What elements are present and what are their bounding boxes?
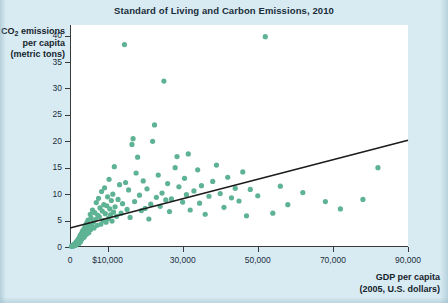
scatter-point (176, 184, 181, 189)
chart-title: Standard of Living and Carbon Emissions,… (0, 5, 448, 16)
x-tick-label: 50,000 (245, 255, 271, 265)
scatter-point (111, 210, 116, 215)
scatter-point (206, 194, 211, 199)
x-axis-label-line2: (2005, U.S. dollars) (200, 284, 440, 296)
scatter-point (134, 170, 139, 175)
x-tick-mark (108, 247, 109, 252)
scatter-point (135, 155, 140, 160)
scatter-point (165, 181, 170, 186)
scatter-point (102, 185, 107, 190)
x-tick-label: 0 (68, 255, 73, 265)
scatter-point (156, 173, 161, 178)
y-tick-label: 15 (28, 163, 62, 172)
scatter-point (300, 190, 305, 195)
scatter-point (109, 219, 114, 224)
scatter-point (255, 193, 260, 198)
scatter-point (146, 216, 151, 221)
scatter-point (173, 165, 178, 170)
scatter-point (375, 165, 380, 170)
scatter-point (225, 175, 230, 180)
scatter-point (120, 201, 125, 206)
scatter-point (97, 214, 102, 219)
scatter-point (161, 78, 166, 83)
y-tick-label: 20 (28, 137, 62, 146)
scatter-point (159, 190, 164, 195)
page-edge-shading-bottom (0, 297, 448, 303)
scatter-point (150, 139, 155, 144)
scatter-point (203, 212, 208, 217)
scatter-point (115, 197, 120, 202)
scatter-point (129, 142, 134, 147)
scatter-point (167, 209, 172, 214)
y-tick-label: 35 (28, 58, 62, 67)
y-axis-label-subscript: 2 (15, 30, 19, 37)
scatter-point (263, 34, 268, 39)
scatter-point (96, 196, 101, 201)
scatter-point (163, 197, 168, 202)
scatter-point (117, 182, 122, 187)
x-tick-mark (258, 247, 259, 252)
scatter-point (214, 162, 219, 167)
x-tick-label: 30,000 (170, 255, 196, 265)
y-tick-label: 0 (28, 243, 62, 252)
scatter-point (197, 201, 202, 206)
x-axis-label: GDP per capita (2005, U.S. dollars) (200, 272, 440, 295)
scatter-point (123, 180, 128, 185)
scatter-point (126, 187, 131, 192)
y-tick-label: 40 (28, 31, 62, 40)
x-tick-label: 70,000 (320, 255, 346, 265)
scatter-point (360, 197, 365, 202)
scatter-point (240, 169, 245, 174)
scatter-point (229, 195, 234, 200)
scatter-point (182, 176, 187, 181)
y-tick-label: 5 (28, 216, 62, 225)
scatter-point (132, 199, 137, 204)
scatter-point (127, 215, 132, 220)
x-tick-label: $10,000 (92, 255, 123, 265)
scatter-point (109, 198, 114, 203)
scatter-point (188, 207, 193, 212)
scatter-point (221, 205, 226, 210)
scatter-point (186, 151, 191, 156)
scatter-point (154, 195, 159, 200)
y-tick-label: 10 (28, 190, 62, 199)
scatter-point (233, 186, 238, 191)
scatter-point (278, 184, 283, 189)
scatter-point (103, 211, 108, 216)
scatter-point (236, 198, 241, 203)
y-tick-label: 30 (28, 84, 62, 93)
scatter-point (199, 183, 204, 188)
x-tick-mark (408, 247, 409, 252)
x-tick-label: 90,000 (395, 255, 421, 265)
scatter-point (122, 42, 127, 47)
scatter-point (106, 177, 111, 182)
scatter-point (110, 192, 115, 197)
scatter-point (144, 186, 149, 191)
scatter-plot-layer (70, 25, 408, 247)
scatter-point (112, 164, 117, 169)
scatter-point (218, 191, 223, 196)
y-tick-label: 25 (28, 110, 62, 119)
scatter-point (248, 187, 253, 192)
scatter-point (112, 204, 117, 209)
scatter-point (323, 199, 328, 204)
x-tick-mark (183, 247, 184, 252)
scatter-point (141, 178, 146, 183)
page-edge-shading-right (440, 0, 448, 303)
scatter-point (105, 194, 110, 199)
scatter-point (130, 136, 135, 141)
scatter-point (191, 188, 196, 193)
scatter-point (195, 167, 200, 172)
x-axis-label-line1: GDP per capita (200, 272, 440, 284)
chart-figure: Standard of Living and Carbon Emissions,… (0, 0, 448, 303)
scatter-point (244, 213, 249, 218)
scatter-point (124, 207, 129, 212)
scatter-point (174, 154, 179, 159)
scatter-point (338, 206, 343, 211)
y-axis-label-co: CO (1, 26, 15, 36)
scatter-point (210, 179, 215, 184)
scatter-point (270, 211, 275, 216)
scatter-point (137, 193, 142, 198)
scatter-point (152, 122, 157, 127)
x-tick-mark (333, 247, 334, 252)
